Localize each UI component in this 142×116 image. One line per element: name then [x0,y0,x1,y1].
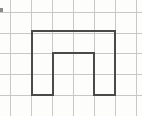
figure-background [0,0,142,116]
edge-smudge-mark [0,8,3,12]
figure-container: Arch polygon on graph paper [0,0,142,116]
arch-figure [0,0,142,116]
